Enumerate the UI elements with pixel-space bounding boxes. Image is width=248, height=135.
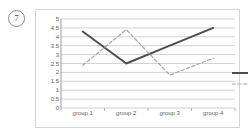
- chart-legend: NO.1NO.2: [232, 67, 248, 89]
- y-tick-label: 4: [42, 34, 59, 40]
- x-axis-ticks: group 1group 2group 3group 4: [61, 10, 235, 129]
- x-tick-label: group 2: [116, 110, 136, 116]
- legend-swatch-solid: [232, 70, 248, 76]
- y-tick-label: 3.5: [42, 43, 59, 49]
- x-tick-label: group 3: [160, 110, 180, 116]
- y-tick-label: 3: [42, 52, 59, 58]
- legend-item-no1: NO.1: [232, 67, 248, 78]
- y-axis-ticks: 00.511.522.533.544.55: [42, 10, 59, 129]
- x-tick-label: group 1: [73, 110, 93, 116]
- y-tick-label: 1.5: [42, 78, 59, 84]
- y-tick-label: 0: [42, 105, 59, 111]
- legend-swatch-dashed: [232, 81, 248, 87]
- y-tick-label: 2.5: [42, 61, 59, 67]
- chart-frame: 00.511.522.533.544.55 group 1group 2grou…: [35, 9, 240, 128]
- y-tick-label: 4.5: [42, 25, 59, 31]
- y-tick-label: 5: [42, 16, 59, 22]
- y-tick-label: 2: [42, 69, 59, 75]
- x-tick-label: group 4: [203, 110, 223, 116]
- y-tick-label: 1: [42, 87, 59, 93]
- legend-item-no2: NO.2: [232, 78, 248, 89]
- item-number-badge: 7: [8, 10, 25, 27]
- chart-page: 7 00.511.522.533.544.55 group 1group 2gr…: [0, 0, 248, 135]
- y-tick-label: 0.5: [42, 96, 59, 102]
